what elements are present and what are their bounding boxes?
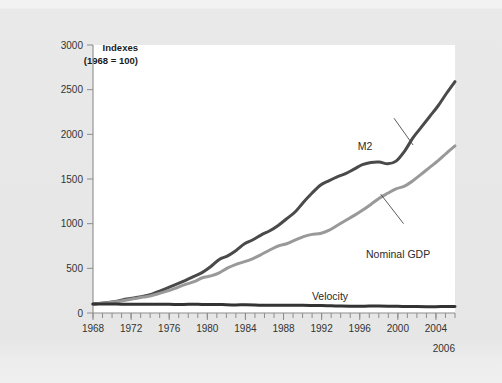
x-tick-label: 1972 [120,323,143,334]
series-label-nominal-gdp: Nominal GDP [366,248,430,260]
y-tick-label: 0 [77,308,83,319]
x-tick-label: 1992 [311,323,334,334]
x-axis-end-year-label: 2006 [433,343,456,354]
x-tick-label: 1968 [82,323,105,334]
x-tick-label: 2000 [387,323,410,334]
x-tick-label: 1980 [196,323,219,334]
series-label-m2: M2 [358,140,373,152]
y-tick-label: 2500 [61,84,84,95]
y-tick-label: 3000 [61,40,84,51]
x-tick-label: 1976 [158,323,181,334]
chart-figure: Indexes (1968 = 100) 0500100015002000250… [0,0,502,383]
y-axis-ticks: 050010001500200025003000 [61,40,93,319]
y-axis-title-line1: Indexes [103,42,138,53]
y-tick-label: 1000 [61,218,84,229]
y-tick-label: 2000 [61,129,84,140]
line-chart: Indexes (1968 = 100) 0500100015002000250… [0,0,502,383]
series-label-velocity: Velocity [312,290,349,302]
y-tick-label: 1500 [61,174,84,185]
x-tick-label: 1988 [272,323,295,334]
x-axis-ticks: 1968197219761980198419881992199620002004 [82,313,455,334]
y-axis-title-line2: (1968 = 100) [84,55,138,66]
x-tick-label: 1984 [234,323,257,334]
plot-area-background [93,45,455,313]
x-tick-label: 2004 [425,323,448,334]
x-tick-label: 1996 [349,323,372,334]
y-tick-label: 500 [66,263,83,274]
